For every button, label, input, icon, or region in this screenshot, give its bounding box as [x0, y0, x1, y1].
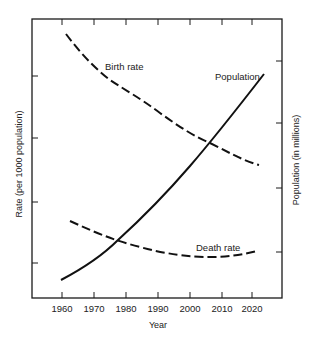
y-axis-title-right: Population (in millions)	[291, 115, 301, 206]
x-axis-title: Year	[149, 320, 167, 330]
left-axis-ticks	[32, 76, 38, 263]
x-tick-1980: 1980	[115, 303, 136, 314]
x-tick-1970: 1970	[83, 303, 104, 314]
x-tick-2020: 2020	[241, 303, 262, 314]
chart-canvas: 1960 1970 1980 1990 2000 2010 2020 Year …	[0, 0, 315, 340]
x-tick-2010: 2010	[211, 303, 232, 314]
x-tick-labels: 1960 1970 1980 1990 2000 2010 2020	[51, 303, 262, 314]
right-axis-ticks	[276, 61, 282, 252]
birth-rate-line	[66, 34, 259, 165]
x-axis-ticks	[62, 292, 252, 298]
x-tick-2000: 2000	[179, 303, 200, 314]
death-rate-label: Death rate	[196, 242, 240, 253]
x-tick-1960: 1960	[51, 303, 72, 314]
x-tick-1990: 1990	[147, 303, 168, 314]
top-axis-ticks	[62, 19, 252, 25]
y-axis-title-left: Rate (per 1000 population)	[14, 110, 24, 217]
plot-frame	[32, 19, 282, 298]
population-label: Population	[215, 71, 260, 82]
birth-rate-label: Birth rate	[105, 61, 144, 72]
